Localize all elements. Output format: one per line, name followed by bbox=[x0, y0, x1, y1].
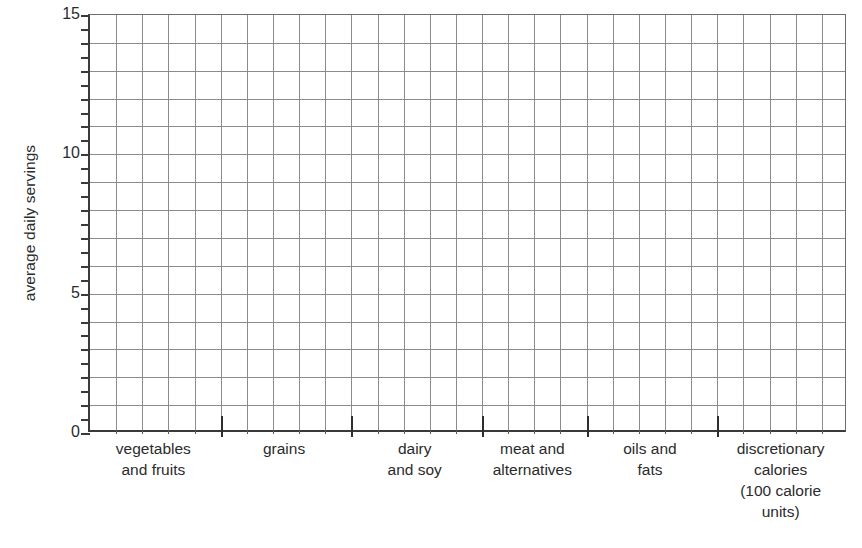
y-axis-tick-major bbox=[81, 99, 90, 101]
gridline-vertical bbox=[273, 15, 274, 430]
category-label-line: discretionary bbox=[737, 438, 825, 459]
x-axis-tick-minor bbox=[273, 430, 274, 434]
x-axis-category-label-dairy-and-soy: dairyand soy bbox=[388, 438, 442, 480]
y-axis-tick-labels: 151050 bbox=[46, 14, 80, 432]
category-label-line: vegetables bbox=[116, 438, 191, 459]
x-axis-tick-minor bbox=[168, 430, 169, 434]
gridline-vertical bbox=[221, 15, 222, 430]
x-axis-tick-minor bbox=[796, 430, 797, 434]
plot-frame bbox=[88, 14, 846, 432]
y-axis-tick-major bbox=[81, 266, 90, 268]
category-label-line: dairy bbox=[388, 438, 442, 459]
y-axis-tick-major bbox=[81, 43, 90, 45]
gridline-vertical bbox=[299, 15, 300, 430]
x-axis-tick-minor bbox=[430, 430, 431, 434]
gridline-horizontal bbox=[90, 210, 845, 211]
y-axis-tick-minor bbox=[81, 252, 90, 254]
gridline-horizontal bbox=[90, 266, 845, 267]
y-axis-tick-minor bbox=[81, 113, 90, 115]
x-axis-category-label-oils-and-fats: oils andfats bbox=[623, 438, 676, 480]
x-axis-category-label-grains: grains bbox=[263, 438, 305, 459]
category-boundary-mark bbox=[587, 416, 589, 430]
plot-area bbox=[88, 14, 846, 432]
gridline-vertical bbox=[378, 15, 379, 430]
y-axis-tick-major bbox=[81, 377, 90, 379]
gridline-vertical bbox=[247, 15, 248, 430]
x-axis-tick-major bbox=[482, 430, 484, 437]
y-axis-tick-major bbox=[81, 126, 90, 128]
y-axis-tick-minor bbox=[81, 363, 90, 365]
x-axis-tick-minor bbox=[404, 430, 405, 434]
category-boundary-mark bbox=[482, 416, 484, 430]
y-axis-tick-major bbox=[81, 182, 90, 184]
gridline-vertical bbox=[404, 15, 405, 430]
x-axis-tick-minor bbox=[691, 430, 692, 434]
x-axis-tick-minor bbox=[613, 430, 614, 434]
y-axis-tick-minor bbox=[81, 280, 90, 282]
x-axis-tick-major bbox=[221, 430, 223, 437]
y-axis-tick-minor bbox=[81, 168, 90, 170]
category-label-line: units) bbox=[737, 501, 825, 522]
gridline-horizontal bbox=[90, 377, 845, 378]
y-axis-tick-major bbox=[81, 210, 90, 212]
gridline-horizontal bbox=[90, 294, 845, 295]
x-axis-tick-minor bbox=[456, 430, 457, 434]
gridline-vertical bbox=[456, 15, 457, 430]
gridline-horizontal bbox=[90, 126, 845, 127]
gridline-horizontal bbox=[90, 322, 845, 323]
y-axis-tick-minor bbox=[81, 335, 90, 337]
gridline-vertical bbox=[195, 15, 196, 430]
category-label-line: fats bbox=[623, 459, 676, 480]
y-axis-tick-label: 0 bbox=[71, 423, 80, 441]
gridline-vertical bbox=[796, 15, 797, 430]
x-axis-category-label-discretionary-calories: discretionarycalories(100 calorieunits) bbox=[737, 438, 825, 522]
x-axis-tick-minor bbox=[743, 430, 744, 434]
y-axis-tick-label: 15 bbox=[62, 5, 80, 23]
x-axis-tick-minor bbox=[116, 430, 117, 434]
y-axis-title-text: average daily servings bbox=[21, 145, 39, 301]
gridline-vertical bbox=[770, 15, 771, 430]
gridline-vertical bbox=[168, 15, 169, 430]
y-axis-tick-major bbox=[81, 405, 90, 407]
gridline-horizontal bbox=[90, 182, 845, 183]
category-label-line: and fruits bbox=[116, 459, 191, 480]
x-axis-category-labels: vegetablesand fruitsgrainsdairyand soyme… bbox=[88, 438, 846, 542]
x-axis-tick-minor bbox=[665, 430, 666, 434]
gridline-horizontal bbox=[90, 349, 845, 350]
gridline-horizontal bbox=[90, 154, 845, 155]
x-axis-tick-major bbox=[717, 430, 719, 437]
gridline-vertical bbox=[587, 15, 588, 430]
y-axis-tick-minor bbox=[81, 140, 90, 142]
y-axis-tick-minor bbox=[81, 419, 90, 421]
gridline-vertical bbox=[717, 15, 718, 430]
x-axis-category-label-vegetables-and-fruits: vegetablesand fruits bbox=[116, 438, 191, 480]
gridline-vertical bbox=[560, 15, 561, 430]
category-label-line: and soy bbox=[388, 459, 442, 480]
x-axis-tick-minor bbox=[378, 430, 379, 434]
y-axis-tick-minor bbox=[81, 224, 90, 226]
y-axis-tick-major bbox=[81, 15, 90, 17]
gridline-horizontal bbox=[90, 238, 845, 239]
y-axis-tick-major bbox=[81, 322, 90, 324]
category-label-line: calories bbox=[737, 459, 825, 480]
gridline-vertical bbox=[534, 15, 535, 430]
y-axis-tick-major bbox=[81, 71, 90, 73]
y-axis-title: average daily servings bbox=[14, 14, 46, 432]
category-label-line: (100 calorie bbox=[737, 480, 825, 501]
x-axis-tick-minor bbox=[822, 430, 823, 434]
y-axis-tick-major bbox=[81, 294, 90, 296]
y-axis-tick-label: 10 bbox=[62, 144, 80, 162]
x-axis-tick-minor bbox=[508, 430, 509, 434]
gridline-horizontal bbox=[90, 43, 845, 44]
gridline-horizontal bbox=[90, 71, 845, 72]
y-axis-tick-minor bbox=[81, 391, 90, 393]
category-label-line: alternatives bbox=[493, 459, 572, 480]
y-axis-tick-minor bbox=[81, 57, 90, 59]
gridline-vertical bbox=[430, 15, 431, 430]
x-axis-category-label-meat-and-alternatives: meat andalternatives bbox=[493, 438, 572, 480]
gridline-horizontal bbox=[90, 405, 845, 406]
y-axis-tick-minor bbox=[81, 308, 90, 310]
gridline-vertical bbox=[665, 15, 666, 430]
y-axis-tick-minor bbox=[81, 196, 90, 198]
gridline-vertical bbox=[691, 15, 692, 430]
